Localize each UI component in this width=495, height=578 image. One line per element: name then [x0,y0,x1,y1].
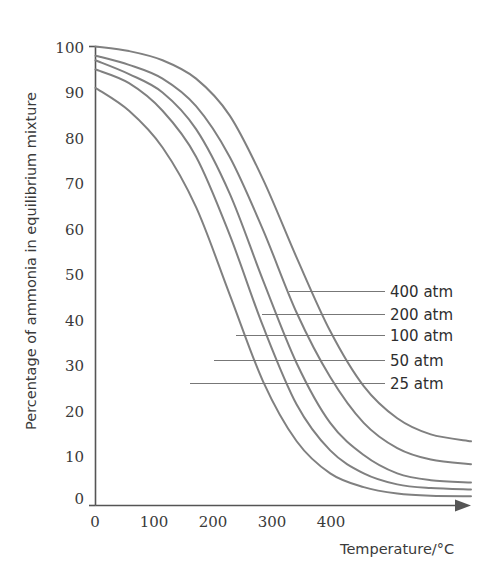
x-tick-labels: 0 100 200 300 400 [90,513,345,531]
x-tick-0: 0 [90,513,100,531]
x-axis-title: Temperature/°C [339,541,454,557]
y-tick-labels: 100 90 80 70 60 50 40 30 20 10 0 [55,39,84,508]
y-tick-70: 70 [65,175,84,193]
y-tick-50: 50 [65,266,84,284]
y-tick-30: 30 [65,357,84,375]
chart-figure: 100 90 80 70 60 50 40 30 20 10 0 0 100 2… [0,0,495,578]
x-tick-100: 100 [140,513,169,531]
ammonia-equilibrium-chart: 100 90 80 70 60 50 40 30 20 10 0 0 100 2… [0,0,495,578]
legend-label-400-atm: 400 atm [390,283,453,301]
y-tick-40: 40 [65,312,84,330]
x-tick-400: 400 [317,513,346,531]
legend-label-25-atm: 25 atm [390,375,444,393]
legend-labels: 400 atm 200 atm 100 atm 50 atm 25 atm [390,283,453,393]
y-tick-0: 0 [74,490,84,508]
curve-200-atm [96,56,472,465]
y-axis-title: Percentage of ammonia in equilibrium mix… [23,92,39,430]
curve-group [96,47,472,497]
legend-label-200-atm: 200 atm [390,306,453,324]
axes-group [89,46,471,512]
y-tick-90: 90 [65,84,84,102]
x-tick-200: 200 [199,513,228,531]
y-tick-10: 10 [65,448,84,466]
y-tick-80: 80 [65,130,84,148]
x-tick-300: 300 [258,513,287,531]
y-tick-60: 60 [65,221,84,239]
legend-label-50-atm: 50 atm [390,352,444,370]
x-axis-arrow-icon [455,500,471,512]
legend-label-100-atm: 100 atm [390,327,453,345]
legend-leader-lines [190,292,385,384]
y-tick-20: 20 [65,403,84,421]
y-tick-100: 100 [55,39,84,57]
